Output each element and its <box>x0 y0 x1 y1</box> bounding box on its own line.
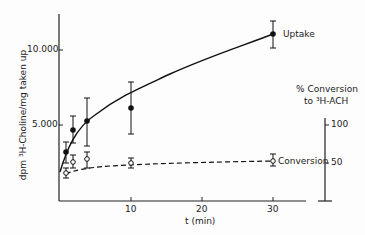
y-axis-label: dpm ³H-Choline/mg taken up <box>18 40 28 190</box>
conversion-curve <box>66 161 273 174</box>
y2-label-line2: to ³H-ACH <box>304 96 348 106</box>
xtick-10: 10 <box>125 204 136 214</box>
x-axis-label: t (min) <box>185 216 215 226</box>
y2-label-line1: % Conversion <box>296 84 358 94</box>
y2tick-50: 50 <box>331 157 342 167</box>
ytick-10000: 10.000 <box>27 44 59 54</box>
uptake-label: Uptake <box>283 29 315 39</box>
conversion-points <box>63 152 276 178</box>
uptake-points <box>63 21 276 163</box>
xtick-20: 20 <box>196 204 207 214</box>
xtick-30: 30 <box>267 204 278 214</box>
ytick-5000: 5.000 <box>32 119 58 129</box>
conversion-label: Conversion <box>278 156 328 166</box>
chart: dpm ³H-Choline/mg taken up 10.000 5.000 … <box>0 0 365 235</box>
uptake-curve <box>60 34 273 172</box>
y2tick-100: 100 <box>331 119 348 129</box>
